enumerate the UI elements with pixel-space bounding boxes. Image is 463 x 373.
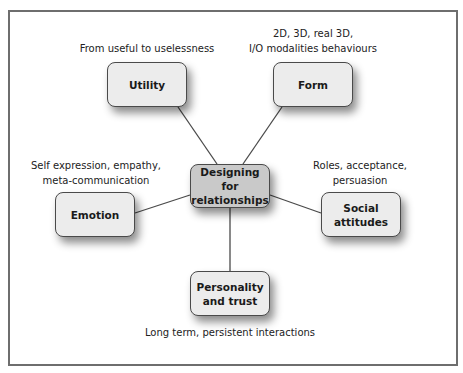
social-description-line2: persuasion — [313, 173, 407, 188]
node-center: Designing for relationships — [190, 164, 270, 208]
emotion-label: Emotion — [71, 208, 120, 222]
node-social-attitudes: Social attitudes — [321, 192, 401, 237]
node-personality-trust: Personality and trust — [190, 271, 270, 316]
social-description: Roles, acceptance, persuasion — [313, 158, 407, 188]
emotion-description-line2: meta-communication — [31, 173, 161, 188]
social-description-line1: Roles, acceptance, — [313, 158, 407, 173]
personality-label-line1: Personality — [196, 280, 263, 294]
social-label-line1: Social — [334, 201, 388, 215]
center-label-line2: relationships — [191, 193, 269, 207]
personality-label-line2: and trust — [196, 294, 263, 308]
utility-description: From useful to uselessness — [80, 41, 215, 56]
connector-social — [270, 195, 321, 213]
emotion-description: Self expression, empathy, meta-communica… — [31, 158, 161, 188]
form-description: 2D, 3D, real 3D, I/O modalities behaviou… — [249, 26, 377, 56]
social-label-line2: attitudes — [334, 215, 388, 229]
node-utility: Utility — [107, 62, 187, 107]
utility-description-line1: From useful to uselessness — [80, 43, 215, 54]
connector-emotion — [135, 195, 190, 213]
center-label-line1: Designing for — [191, 165, 269, 193]
personality-description-line1: Long term, persistent interactions — [145, 327, 315, 338]
form-label: Form — [298, 78, 328, 92]
form-description-line1: 2D, 3D, real 3D, — [249, 26, 377, 41]
connector-utility — [178, 107, 217, 164]
utility-label: Utility — [129, 78, 165, 92]
node-form: Form — [273, 62, 353, 107]
emotion-description-line1: Self expression, empathy, — [31, 158, 161, 173]
connector-form — [243, 107, 282, 164]
form-description-line2: I/O modalities behaviours — [249, 41, 377, 56]
node-emotion: Emotion — [55, 192, 135, 237]
personality-description: Long term, persistent interactions — [145, 325, 315, 340]
